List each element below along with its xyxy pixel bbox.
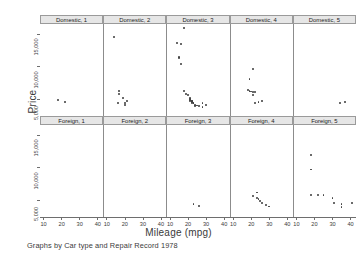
x-tick-mark [143,217,144,220]
panel-plot-foreign-4 [230,125,293,217]
x-tick-label: 20 [180,221,196,227]
panel-header-domestic-3: Domestic, 3 [166,15,229,24]
x-tick-label: 20 [306,221,322,227]
data-point [126,100,128,102]
panel-header-domestic-1: Domestic, 1 [40,15,103,24]
x-tick-mark [224,217,225,220]
panel-plot-domestic-3 [166,24,229,116]
panel-plot-foreign-1 [40,125,103,217]
panel-plot-domestic-2 [103,24,166,116]
data-point [323,194,325,196]
panel-plot-domestic-1 [40,24,103,116]
x-tick-label: 30 [325,221,341,227]
panel-header-foreign-1: Foreign, 1 [40,116,103,125]
x-tick-mark [79,217,80,220]
data-point [333,202,335,204]
x-tick-mark [314,217,315,220]
panel-separator [230,24,231,116]
data-point [254,91,256,93]
data-point [198,205,200,207]
data-point [118,93,120,95]
panel-separator [293,125,294,217]
data-point [258,101,260,103]
data-point [180,63,182,65]
y-tick-label: 10,000 [33,168,39,194]
data-point [187,94,189,96]
data-point [176,42,178,44]
data-point [344,101,346,103]
x-tick-mark [251,217,252,220]
panel-separator [103,125,104,217]
x-tick-label: 20 [243,221,259,227]
data-point [180,43,182,45]
x-tick-label: 40 [343,221,357,227]
x-tick-mark [188,217,189,220]
x-tick-label: 20 [117,221,133,227]
x-tick-mark [97,217,98,220]
data-point [113,36,115,38]
data-point [252,68,254,70]
x-tick-label: 30 [261,221,277,227]
data-point [265,204,267,206]
data-point [122,97,124,99]
x-tick-label: 10 [225,221,241,227]
figure-caption: Graphs by Car type and Repair Record 197… [27,241,178,250]
x-tick-mark [233,217,234,220]
data-point [310,154,312,156]
data-point [332,197,334,199]
data-point [64,101,66,103]
data-point [341,203,343,205]
data-point [178,57,180,59]
x-tick-mark [43,217,44,220]
y-tick-label: 5,000 [33,100,39,126]
panel-header-foreign-4: Foreign, 4 [230,116,293,125]
y-tick-label: 15,000 [33,34,39,60]
y-tick-label: 10,000 [33,67,39,93]
data-point [205,104,207,106]
panel-header-domestic-2: Domestic, 2 [103,15,166,24]
data-point [57,99,59,101]
scatter-plot-matrix: Price Mileage (mpg) Graphs by Car type a… [0,0,357,260]
data-point [261,202,263,204]
data-point [252,94,254,96]
x-tick-label: 10 [162,221,178,227]
data-point [268,206,270,208]
data-point [256,192,258,194]
data-point [341,206,343,208]
data-point [252,195,254,197]
x-tick-label: 30 [135,221,151,227]
data-point [254,102,256,104]
panel-plot-foreign-5 [293,125,356,217]
panel-header-foreign-5: Foreign, 5 [293,116,356,125]
data-point [310,169,312,171]
data-point [202,102,204,104]
panel-separator [293,24,294,116]
x-tick-mark [125,217,126,220]
x-axis-title: Mileage (mpg) [0,227,357,238]
x-tick-label: 30 [72,221,88,227]
y-tick-label: 15,000 [33,135,39,161]
data-point [198,105,200,107]
panel-separator [103,24,104,116]
panel-separator [166,125,167,217]
panel-plot-foreign-2 [103,125,166,217]
data-point [183,90,185,92]
panel-plot-domestic-4 [230,24,293,116]
x-tick-mark [61,217,62,220]
x-tick-label: 30 [198,221,214,227]
x-tick-mark [170,217,171,220]
x-tick-label: 10 [36,221,52,227]
data-point [351,202,353,204]
panel-header-domestic-5: Domestic, 5 [293,15,356,24]
x-tick-label: 20 [54,221,70,227]
panel-plot-foreign-3 [166,125,229,217]
data-point [193,203,195,205]
panel-header-domestic-4: Domestic, 4 [230,15,293,24]
x-tick-mark [161,217,162,220]
data-point [124,104,126,106]
data-point [261,100,263,102]
data-point [202,106,204,108]
panel-plot-domestic-5 [293,24,356,116]
data-point [118,90,120,92]
data-point [183,27,185,29]
